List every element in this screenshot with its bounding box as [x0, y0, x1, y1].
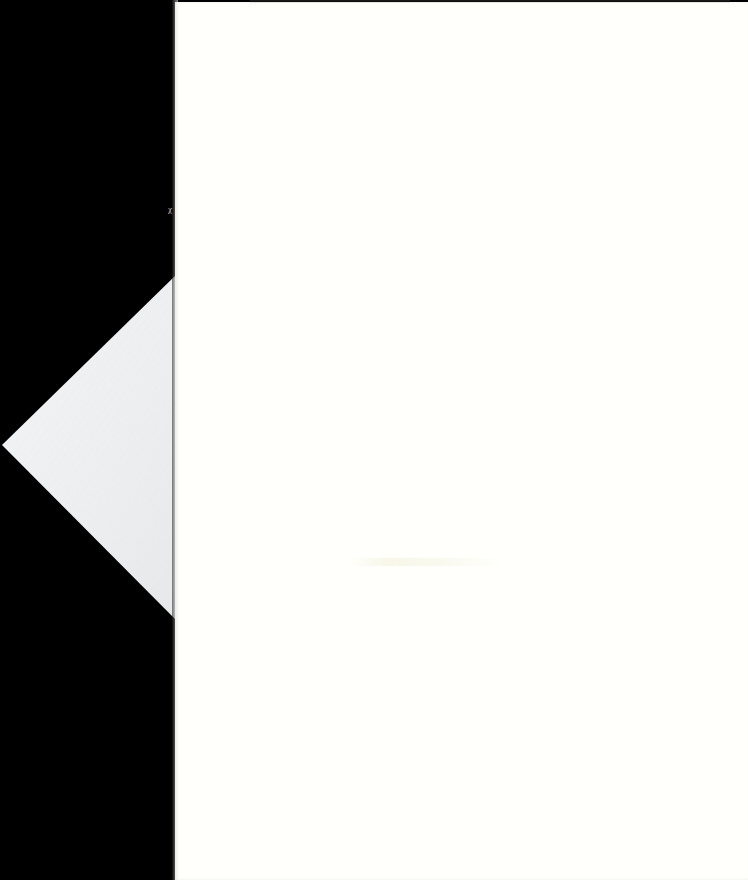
blank-page: [175, 2, 748, 880]
folded-page-corner: [0, 275, 176, 620]
page-top-shadow: [250, 0, 730, 3]
edge-mark: ᵪ: [168, 198, 176, 216]
faint-bleed-through: [350, 558, 500, 566]
scan-canvas: ᵪ: [0, 0, 748, 880]
